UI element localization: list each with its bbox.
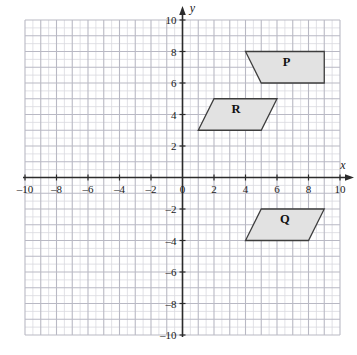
x-tick-label: 4 bbox=[243, 183, 249, 195]
x-tick-label: 10 bbox=[335, 183, 347, 195]
shape-label-p: P bbox=[283, 55, 291, 69]
y-tick-label: –6 bbox=[165, 266, 178, 278]
shape-label-q: Q bbox=[280, 212, 290, 226]
x-tick-label: 8 bbox=[306, 183, 312, 195]
x-axis-label: x bbox=[339, 158, 346, 172]
y-tick-label: –2 bbox=[165, 203, 177, 215]
coordinate-grid-figure: –10–8–6–4–20246810–10–8–6–4–2246810 xy P… bbox=[0, 0, 357, 355]
x-tick-label: –10 bbox=[16, 183, 34, 195]
x-tick-label: 6 bbox=[274, 183, 280, 195]
x-axis-arrowhead bbox=[345, 174, 354, 181]
y-axis-arrowhead bbox=[179, 6, 186, 15]
x-tick-label: –2 bbox=[145, 183, 157, 195]
y-tick-label: –8 bbox=[165, 298, 178, 310]
x-tick-label: 2 bbox=[211, 183, 217, 195]
y-tick-label: –10 bbox=[159, 329, 177, 341]
y-tick-label: 6 bbox=[171, 77, 177, 89]
y-tick-label: 10 bbox=[166, 14, 178, 26]
x-tick-label: –6 bbox=[82, 183, 95, 195]
y-tick-label: 8 bbox=[171, 46, 177, 58]
shape-label-r: R bbox=[232, 102, 242, 116]
coordinate-plane-svg: –10–8–6–4–20246810–10–8–6–4–2246810 xy P… bbox=[0, 0, 357, 355]
y-tick-label: 2 bbox=[171, 140, 177, 152]
x-tick-label: –8 bbox=[50, 183, 63, 195]
x-tick-label: –4 bbox=[113, 183, 126, 195]
x-tick-label: 0 bbox=[180, 183, 186, 195]
y-tick-label: 4 bbox=[171, 109, 177, 121]
y-tick-label: –4 bbox=[165, 235, 178, 247]
y-axis-label: y bbox=[189, 1, 196, 15]
